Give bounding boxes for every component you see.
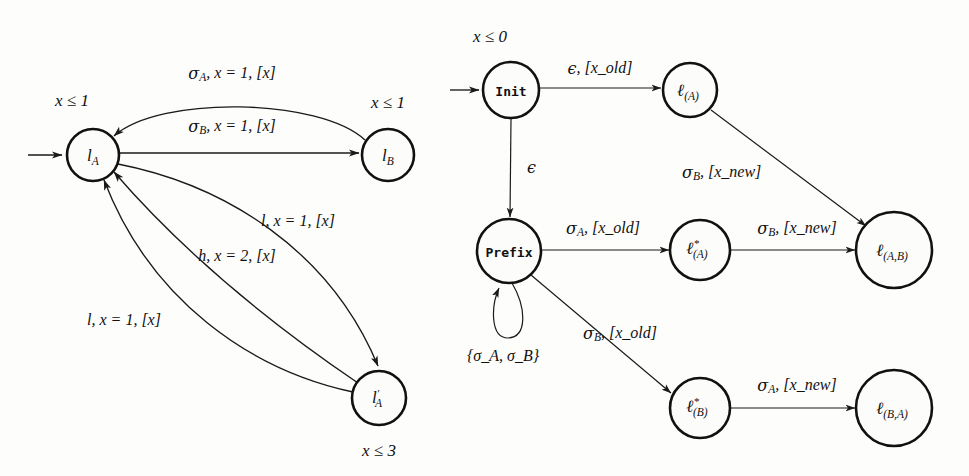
edge-Prefix-self-loop <box>494 283 523 338</box>
node-label-Prefix: Prefix <box>486 245 533 260</box>
figure-container: lA lB l′A x ≤ 1 x ≤ 1 x ≤ 3 σA, x = 1, [… <box>0 0 969 476</box>
edge-label-eps-vertical: ϵ <box>527 158 536 177</box>
edge-label-sigmaB-mid: σB, x = 1, [x] <box>188 117 275 136</box>
right-diagram: Init Prefix ℓ(A) ℓ*(A) ℓ(A,B) ℓ*(B) ℓ(B,… <box>450 27 932 446</box>
edge-label-l-right: l, x = 1, [x] <box>261 212 335 229</box>
edge-label-sigmaB-xnew-diagonal: σB, [x_new] <box>682 163 761 182</box>
edge-label-h-mid: h, x = 2, [x] <box>198 247 275 264</box>
invariant-lAprime: x ≤ 3 <box>361 441 396 460</box>
edge-label-sigmaB-xold: σB, [x_old] <box>583 324 657 343</box>
edge-Init-to-Prefix <box>510 119 511 217</box>
invariant-lA: x ≤ 1 <box>54 91 89 110</box>
edge-label-selfloop-set: {σ_A, σ_B} <box>467 347 540 364</box>
edge-lAprime-to-lA-h <box>114 172 358 383</box>
edge-label-sigmaA-xold: σA, [x_old] <box>566 219 640 238</box>
edge-label-l-bottom: l, x = 1, [x] <box>87 311 161 328</box>
node-label-Init: Init <box>495 84 526 99</box>
edge-label-eps-xold: ϵ, [x_old] <box>568 59 633 78</box>
edge-label-sigmaA-xnew: σA, [x_new] <box>757 376 836 395</box>
edge-label-sigmaA-top: σA, x = 1, [x] <box>188 64 275 83</box>
left-diagram: lA lB l′A x ≤ 1 x ≤ 1 x ≤ 3 σA, x = 1, [… <box>28 64 414 460</box>
edge-label-sigmaB-xnew: σB, [x_new] <box>757 219 836 238</box>
invariant-lB: x ≤ 1 <box>370 93 405 112</box>
diagram-canvas: lA lB l′A x ≤ 1 x ≤ 1 x ≤ 3 σA, x = 1, [… <box>0 0 969 476</box>
invariant-Init: x ≤ 0 <box>472 27 507 46</box>
edge-lA-to-lAprime-l <box>118 164 378 366</box>
